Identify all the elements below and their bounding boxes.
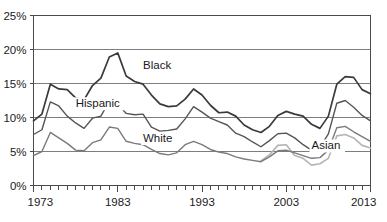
series-label-asian: Asian (312, 139, 341, 151)
unemployment-rate-line-chart: 0%5%10%15%20%25%19731983199320032013Blac… (0, 0, 387, 222)
y-tick-label: 5% (10, 146, 27, 158)
chart-canvas: 0%5%10%15%20%25%19731983199320032013Blac… (0, 0, 387, 222)
y-tick-label: 20% (3, 44, 26, 56)
y-axis-tick-labels: 0%5%10%15%20%25% (3, 10, 26, 192)
y-axis-ticks (30, 16, 34, 186)
series-line-black (34, 53, 371, 133)
series-labels: BlackHispanicWhiteAsian (74, 59, 345, 153)
x-tick-label: 1993 (189, 196, 215, 208)
y-tick-label: 15% (3, 78, 26, 90)
y-tick-label: 10% (3, 112, 26, 124)
x-tick-label: 1983 (105, 196, 131, 208)
x-tick-label: 2013 (351, 196, 377, 208)
series-label-white: White (143, 132, 172, 144)
y-tick-label: 0% (10, 180, 27, 192)
series-label-hispanic: Hispanic (76, 97, 120, 109)
x-axis-ticks (34, 186, 371, 192)
x-tick-label: 2003 (273, 196, 299, 208)
y-tick-label: 25% (3, 10, 26, 22)
x-tick-label: 1973 (28, 196, 54, 208)
series-label-black: Black (143, 59, 171, 71)
x-axis-tick-labels: 19731983199320032013 (28, 196, 377, 208)
